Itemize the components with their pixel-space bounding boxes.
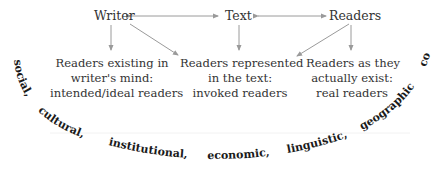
block-invoked-line-2: in the text:: [180, 71, 300, 86]
block-real-line-3: real readers: [306, 86, 398, 101]
block-invoked-line-1: Readers represented: [180, 56, 300, 71]
context-word-linguistic: linguistic,: [286, 128, 349, 156]
arrow-readers-invoked: [297, 24, 349, 56]
node-readers: Readers: [329, 10, 381, 23]
block-intended-line-3: intended/ideal readers: [50, 86, 174, 101]
block-real-line-2: actually exist:: [306, 71, 398, 86]
block-intended-line-1: Readers existing in: [50, 56, 174, 71]
block-intended-readers: Readers existing in writer's mind: inten…: [50, 56, 174, 101]
context-word-economic: economic,: [207, 146, 270, 162]
block-real-readers: Readers as they actually exist: real rea…: [306, 56, 398, 101]
block-invoked-readers: Readers represented in the text: invoked…: [180, 56, 300, 101]
block-invoked-line-3: invoked readers: [180, 86, 300, 101]
context-word-cultural: cultural,: [36, 104, 87, 141]
arrow-writer-invoked: [130, 24, 178, 55]
context-word-institutional: institutional,: [107, 135, 188, 161]
context-word-social: social,: [11, 59, 35, 99]
node-text: Text: [225, 10, 252, 23]
block-real-line-1: Readers as they: [306, 56, 398, 71]
reader-concepts-diagram: social, cultural, institutional, economi…: [0, 0, 441, 176]
block-intended-line-2: writer's mind:: [50, 71, 174, 86]
node-writer: Writer: [94, 10, 135, 23]
